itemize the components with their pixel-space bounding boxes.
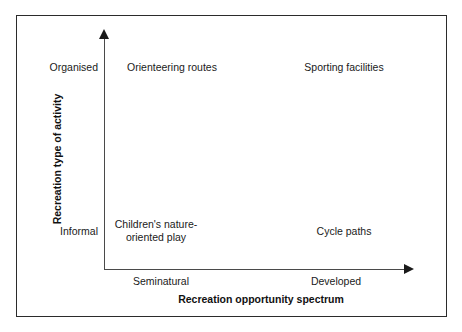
y-axis-title: Recreation type of activity <box>51 92 63 227</box>
quadrant-label-bottom-left: Children's nature-oriented play <box>97 218 215 244</box>
quadrant-label-top-left: Orienteering routes <box>97 61 247 74</box>
x-axis-low-label: Seminatural <box>101 275 221 288</box>
quadrant-label-bottom-right: Cycle paths <box>269 225 419 238</box>
y-axis-arrowhead-icon <box>99 29 109 39</box>
y-axis-low-label: Informal <box>1 225 98 238</box>
quadrant-label-top-right: Sporting facilities <box>269 61 419 74</box>
x-axis-line <box>104 269 409 270</box>
y-axis-high-label: Organised <box>1 61 98 74</box>
x-axis-arrowhead-icon <box>404 264 414 274</box>
x-axis-high-label: Developed <box>281 275 391 288</box>
x-axis-title: Recreation opportunity spectrum <box>111 293 411 305</box>
figure-frame: Organised Informal Seminatural Developed… <box>16 15 447 317</box>
recreation-quadrant-figure: Organised Informal Seminatural Developed… <box>0 0 462 332</box>
